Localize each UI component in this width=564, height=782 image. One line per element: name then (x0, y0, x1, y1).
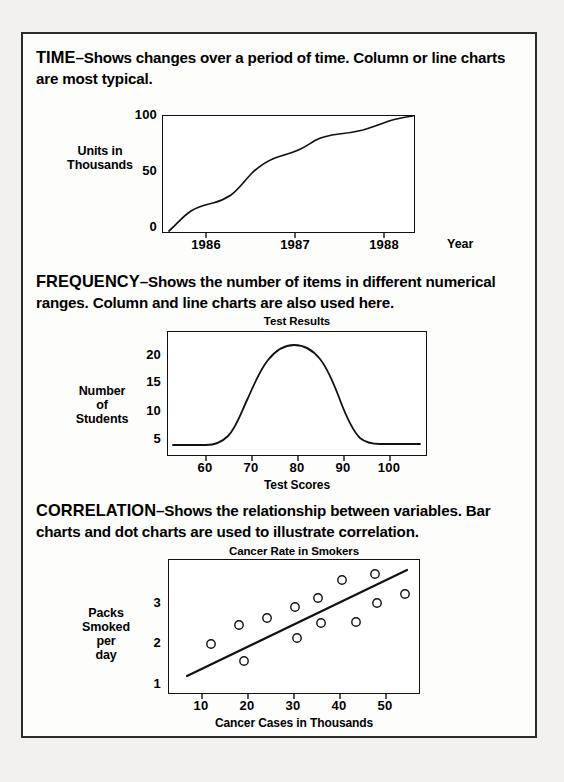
chart-frequency-ytick-20: 20 (119, 347, 161, 362)
section-correlation-text: CORRELATION–Shows the relationship betwe… (36, 500, 520, 542)
chart-correlation-xtick-30: 30 (269, 698, 317, 713)
chart-time-xtick-1988: 1988 (353, 237, 415, 252)
page-frame: TIME–Shows changes over a period of time… (21, 32, 537, 738)
chart-frequency-xtick-90: 90 (319, 460, 367, 475)
chart-time-ytick-50: 50 (113, 163, 157, 178)
section-time-text: TIME–Shows changes over a period of time… (36, 47, 520, 89)
chart-correlation-trendline (187, 570, 407, 676)
section-frequency-term: FREQUENCY (36, 272, 140, 290)
chart-frequency-title: Test Results (167, 315, 427, 327)
chart-correlation-title: Cancer Rate in Smokers (168, 545, 420, 557)
scatter-point (291, 603, 299, 611)
chart-time-xlabel: Year (447, 237, 473, 251)
scatter-point (235, 621, 243, 629)
chart-correlation-xtick-20: 20 (223, 698, 271, 713)
section-correlation-term: CORRELATION (36, 501, 156, 519)
chart-frequency-curve-svg (168, 332, 428, 457)
chart-correlation-ytick-2: 2 (127, 635, 161, 650)
chart-frequency-xtick-60: 60 (181, 460, 229, 475)
chart-time-plot-area (162, 115, 415, 233)
scatter-point (314, 594, 322, 602)
chart-time-line-path (169, 116, 413, 231)
chart-correlation-xtick-40: 40 (315, 698, 363, 713)
chart-time-ytick-0: 0 (113, 219, 157, 234)
section-time-description: Shows changes over a period of time. Col… (36, 49, 505, 87)
chart-frequency-plot-area (167, 331, 427, 456)
chart-time-xtick-1987: 1987 (264, 237, 326, 252)
section-frequency-dash: – (140, 273, 148, 290)
chart-frequency-xlabel: Test Scores (167, 478, 427, 492)
chart-frequency-xtick-80: 80 (273, 460, 321, 475)
chart-correlation-plot-area (168, 559, 420, 694)
scatter-point (263, 614, 271, 622)
chart-correlation-xtick-10: 10 (177, 698, 225, 713)
chart-frequency-xtick-100: 100 (365, 460, 413, 475)
chart-correlation-ytick-3: 3 (127, 595, 161, 610)
scatter-point (401, 590, 409, 598)
scatter-point (371, 570, 379, 578)
chart-time-ylabel-line-1: Units in (57, 144, 143, 158)
chart-time-xtick-1986: 1986 (175, 237, 237, 252)
chart-frequency-curve-path (173, 345, 420, 445)
chart-correlation-ylabel-line-2: Smoked (63, 620, 149, 634)
section-time-term: TIME (36, 48, 76, 66)
scatter-point (373, 599, 381, 607)
chart-correlation-xlabel: Cancer Cases in Thousands (153, 716, 435, 730)
chart-correlation-ytick-1: 1 (127, 676, 161, 691)
section-frequency-text: FREQUENCY–Shows the number of items in d… (36, 271, 520, 313)
chart-frequency-ytick-10: 10 (119, 403, 161, 418)
chart-correlation-scatter-svg (169, 560, 421, 695)
scatter-point (293, 634, 301, 642)
scatter-point (207, 640, 215, 648)
chart-correlation-ylabel-line-4: day (63, 648, 149, 662)
chart-time-line-svg (163, 116, 416, 234)
chart-frequency-ytick-15: 15 (119, 374, 161, 389)
section-time-dash: – (76, 49, 84, 66)
chart-time-ytick-100: 100 (113, 107, 157, 122)
chart-frequency-xtick-70: 70 (227, 460, 275, 475)
scatter-point (352, 618, 360, 626)
scatter-point (317, 619, 325, 627)
chart-correlation-xtick-50: 50 (361, 698, 409, 713)
scatter-point (338, 576, 346, 584)
chart-frequency-ytick-5: 5 (119, 431, 161, 446)
chart-correlation-ylabel: Packs Smoked per day (63, 606, 149, 662)
scatter-point (240, 657, 248, 665)
